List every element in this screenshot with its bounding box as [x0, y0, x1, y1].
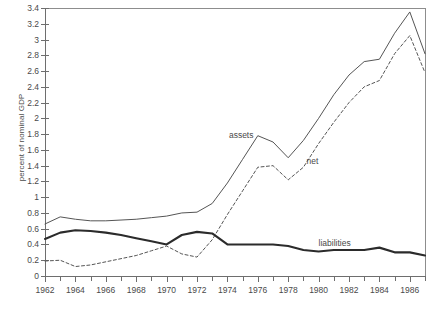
series-label-net: net — [306, 156, 318, 166]
y-axis-title: percent of nominal GDP — [17, 43, 26, 233]
x-tick-minor — [243, 277, 244, 281]
series-line-liabilities — [45, 230, 425, 255]
y-tick-label: 2.2 — [27, 98, 39, 108]
x-tick — [410, 277, 411, 282]
x-tick-minor — [212, 277, 213, 281]
x-tick-minor — [60, 277, 61, 281]
y-tick-label: 3.4 — [27, 3, 39, 13]
x-tick-label: 1972 — [188, 285, 207, 295]
series-label-liabilities: liabilities — [319, 238, 351, 248]
x-tick-label: 1978 — [279, 285, 298, 295]
x-tick-label: 1968 — [127, 285, 146, 295]
x-tick — [288, 277, 289, 282]
x-tick-label: 1984 — [370, 285, 389, 295]
x-tick-minor — [334, 277, 335, 281]
plot-area: 00.20.40.60.811.21.41.61.822.22.42.62.83… — [45, 8, 425, 277]
x-tick-label: 1986 — [400, 285, 419, 295]
y-tick-label: 2 — [34, 113, 39, 123]
y-tick-label: 1.6 — [27, 145, 39, 155]
y-tick-label: 1.4 — [27, 161, 39, 171]
x-tick-minor — [182, 277, 183, 281]
x-tick — [75, 277, 76, 282]
x-tick-label: 1962 — [36, 285, 55, 295]
x-tick — [167, 277, 168, 282]
y-tick-label: 3.2 — [27, 19, 39, 29]
y-tick-label: 2.8 — [27, 50, 39, 60]
x-tick — [136, 277, 137, 282]
x-tick-label: 1966 — [96, 285, 115, 295]
y-tick-label: 1.2 — [27, 176, 39, 186]
y-tick-label: 0.8 — [27, 208, 39, 218]
x-tick-label: 1974 — [218, 285, 237, 295]
x-tick — [227, 277, 228, 282]
x-tick-label: 1980 — [309, 285, 328, 295]
x-tick-minor — [364, 277, 365, 281]
x-tick-minor — [273, 277, 274, 281]
chart-figure: percent of nominal GDP 00.20.40.60.811.2… — [0, 0, 442, 309]
y-tick-label: 1 — [34, 192, 39, 202]
y-tick-label: 0.6 — [27, 224, 39, 234]
y-tick-label: 1.8 — [27, 129, 39, 139]
y-tick-label: 0 — [34, 271, 39, 281]
x-tick-minor — [425, 277, 426, 281]
x-tick — [258, 277, 259, 282]
x-tick-minor — [151, 277, 152, 281]
y-tick-label: 2.6 — [27, 66, 39, 76]
y-tick-label: 3 — [34, 35, 39, 45]
x-tick — [106, 277, 107, 282]
x-tick — [349, 277, 350, 282]
x-tick-minor — [91, 277, 92, 281]
x-tick — [319, 277, 320, 282]
x-tick-label: 1970 — [157, 285, 176, 295]
x-tick-minor — [303, 277, 304, 281]
x-tick — [45, 277, 46, 282]
x-tick-minor — [121, 277, 122, 281]
x-tick-minor — [395, 277, 396, 281]
y-tick-label: 0.2 — [27, 255, 39, 265]
series-line-assets — [45, 12, 425, 224]
x-tick — [197, 277, 198, 282]
y-tick-label: 2.4 — [27, 82, 39, 92]
x-tick-label: 1964 — [66, 285, 85, 295]
x-tick-label: 1982 — [340, 285, 359, 295]
series-lines — [45, 8, 426, 277]
x-tick — [379, 277, 380, 282]
series-label-assets: assets — [229, 130, 254, 140]
x-tick-label: 1976 — [248, 285, 267, 295]
y-tick-label: 0.4 — [27, 239, 39, 249]
